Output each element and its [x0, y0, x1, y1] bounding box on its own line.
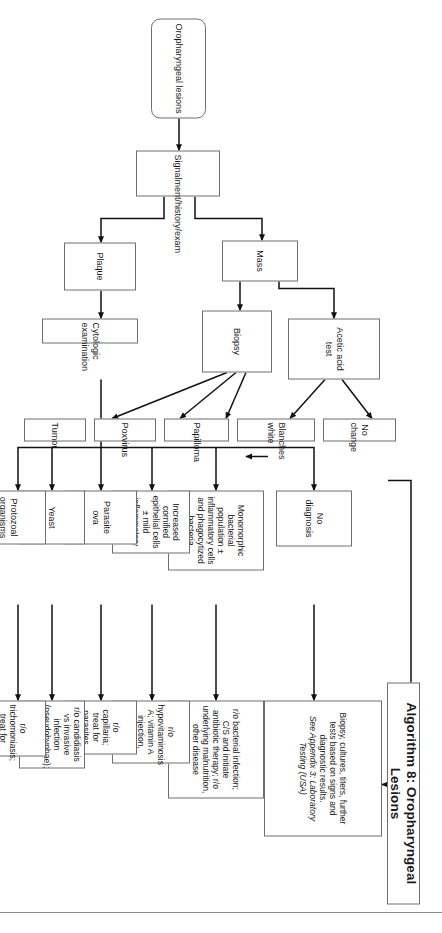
node-label: Mass: [255, 244, 266, 277]
node-label: r/o bacterial infection; C/S and initiat…: [191, 704, 241, 794]
node-label: No change: [349, 422, 370, 437]
node-poxvirus[interactable]: Poxvirus: [94, 418, 156, 441]
node-blanches-white[interactable]: Blanches white: [237, 418, 315, 441]
node-no-change[interactable]: No change: [323, 418, 396, 441]
node-label: Biopsy: [232, 314, 243, 368]
algorithm-title-box: Algorithm 8: Oropharyngeal Lesions: [387, 682, 420, 904]
node-rule-out-trichomoniasis[interactable]: r/o trichomoniasis; treat for protozoa: [0, 700, 46, 756]
node-cytologic-examination[interactable]: Cytologic examination: [42, 318, 138, 343]
node-label: Oropharyngeal lesions: [173, 22, 184, 114]
node-protozoal-organisms[interactable]: Protozoal organisms: [0, 490, 46, 544]
node-label: Protozoal organisms: [0, 494, 19, 540]
node-label: Signalment/history/exam: [173, 154, 184, 192]
node-label: Papilloma: [191, 422, 202, 437]
node-label: Tumor: [50, 422, 61, 437]
node-label-line-1: Biopsy, cultures, titers, further tests …: [318, 704, 348, 832]
node-oropharyngeal-lesions[interactable]: Oropharyngeal lesions: [151, 18, 206, 118]
flowchart-canvas: Oropharyngeal lesions Signalment/history…: [0, 0, 442, 933]
node-label: r/o capillaria; treat for parasites: [81, 704, 121, 750]
node-mass[interactable]: Mass: [222, 240, 298, 281]
node-label: Blanches white: [265, 422, 286, 437]
algorithm-title: Algorithm 8: Oropharyngeal Lesions: [388, 686, 420, 900]
node-papilloma[interactable]: Papilloma: [164, 418, 229, 441]
node-plaque[interactable]: Plaque: [64, 242, 136, 290]
node-tumor[interactable]: Tumor: [24, 418, 86, 441]
node-signalment-history-exam[interactable]: Signalment/history/exam: [136, 150, 220, 196]
node-acetic-acid-test[interactable]: Acetic acid test: [288, 318, 380, 379]
node-label: Cytologic examination: [79, 322, 100, 339]
node-lab-testing[interactable]: Biopsy, cultures, titers, further tests …: [264, 700, 382, 836]
node-label-line-2: See Appendix 3: Laboratory Testing (USA): [298, 704, 318, 832]
node-label: Parasite ova: [90, 494, 111, 540]
node-label: Acetic acid test: [323, 322, 344, 375]
node-label: Plaque: [95, 246, 106, 286]
node-label: Yeast: [47, 494, 58, 540]
node-label: Monomorphic bacterial population ± infla…: [186, 494, 246, 566]
node-label: No diagnosis: [303, 494, 324, 542]
node-biopsy[interactable]: Biopsy: [202, 310, 272, 372]
node-label: Poxvirus: [120, 422, 131, 437]
diagram-stage: Oropharyngeal lesions Signalment/history…: [0, 0, 442, 933]
page-bottom-rule: [0, 912, 442, 913]
node-label: r/o trichomoniasis; treat for protozoa: [0, 704, 28, 752]
node-no-diagnosis[interactable]: No diagnosis: [276, 490, 352, 546]
